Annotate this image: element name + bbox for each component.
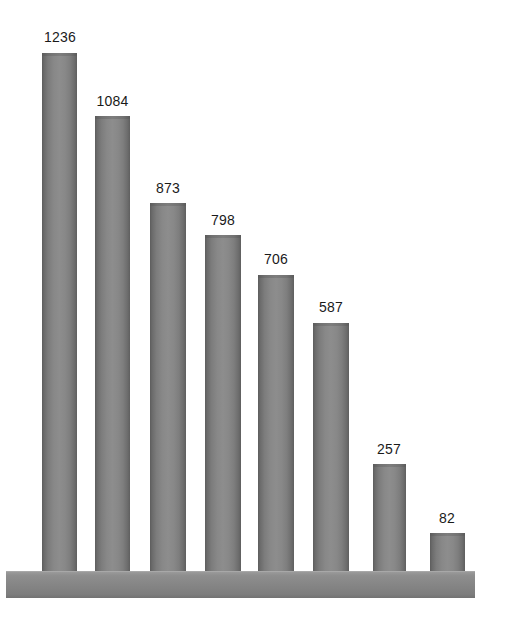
- bar-value-label-4: 798: [205, 213, 241, 227]
- bar-value-label-6: 587: [313, 300, 349, 314]
- baseline-slab: [6, 571, 475, 598]
- bar-7: [373, 464, 406, 571]
- bar-value-label-7: 257: [371, 442, 407, 456]
- bar-3: [150, 203, 186, 571]
- bar-1: [42, 53, 77, 571]
- bar-8: [430, 533, 465, 571]
- bar-chart: 1236108487379870658725782: [0, 0, 506, 623]
- bar-6: [313, 323, 349, 571]
- bar-value-label-3: 873: [150, 181, 186, 195]
- bar-2: [95, 116, 130, 571]
- bar-value-label-5: 706: [258, 252, 294, 266]
- bar-value-label-1: 1236: [42, 30, 78, 44]
- plot-area: 1236108487379870658725782: [0, 0, 506, 623]
- bar-4: [205, 235, 241, 571]
- bar-value-label-2: 1084: [94, 94, 131, 108]
- bar-5: [258, 275, 294, 571]
- bar-value-label-8: 82: [429, 511, 465, 525]
